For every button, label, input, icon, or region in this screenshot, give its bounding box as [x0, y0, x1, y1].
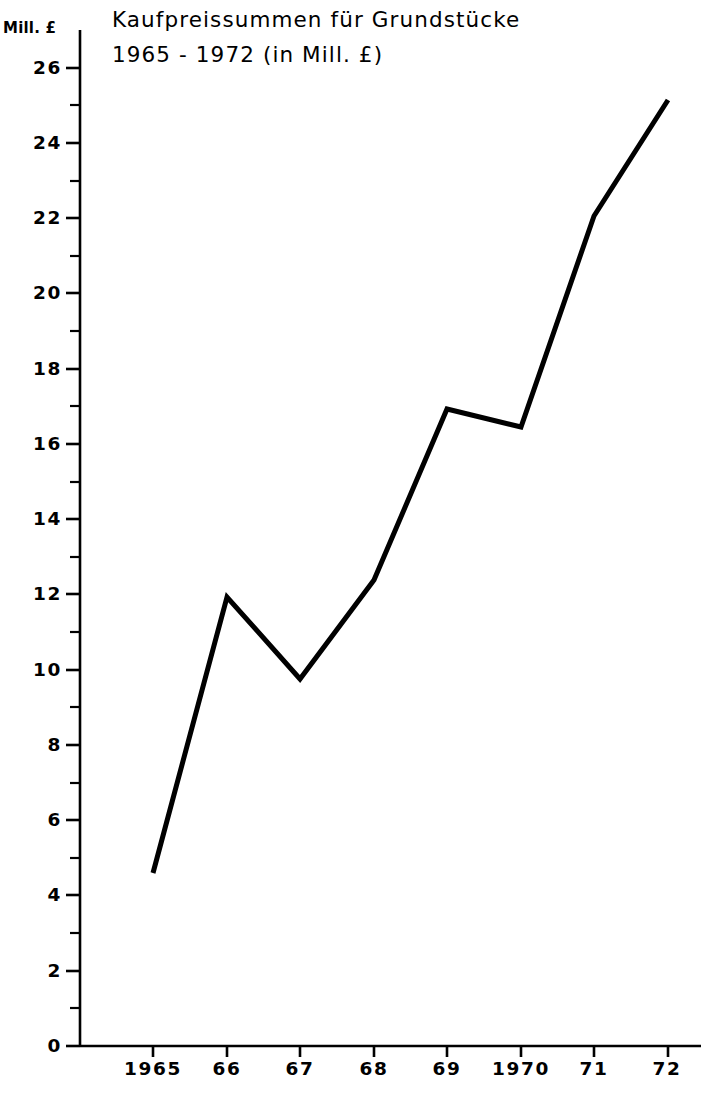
plot-area: [0, 0, 705, 1105]
chart-container: Kaufpreissummen für Grundstücke 1965 - 1…: [0, 0, 705, 1105]
y-axis-minor-ticks: [70, 105, 80, 1008]
data-line-kaufpreissummen: [153, 100, 668, 873]
x-axis-ticks: [153, 1046, 668, 1057]
